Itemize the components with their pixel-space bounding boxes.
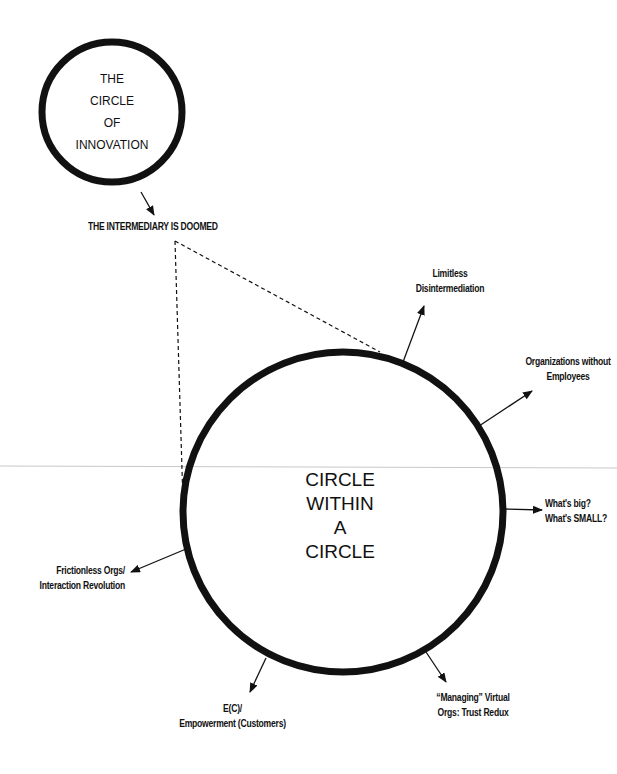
big-circle-label: CIRCLE WITHIN A CIRCLE — [270, 468, 410, 564]
label-orgs-line-2: Employees — [506, 369, 617, 384]
innovation-line-3: OF — [62, 112, 162, 134]
innovation-line-2: CIRCLE — [62, 90, 162, 112]
label-frictionless-line-2: Interaction Revolution — [12, 578, 125, 593]
label-empowerment: E(C)/ Empowerment (Customers) — [164, 701, 301, 731]
label-big-small: What's big? What's SMALL? — [545, 496, 617, 526]
label-managing-virtual: “Managing” Virtual Orgs: Trust Redux — [415, 690, 532, 720]
label-limitless: Limitless Disintermediation — [395, 266, 504, 296]
label-orgs-line-1: Organizations without — [506, 354, 617, 369]
dashed-line-right — [175, 241, 380, 352]
innovation-line-1: THE — [62, 68, 162, 90]
label-managing-line-1: “Managing” Virtual — [415, 690, 532, 705]
arrow-limitless — [403, 306, 424, 362]
innovation-line-4: INNOVATION — [62, 134, 162, 156]
innovation-circle-label: THE CIRCLE OF INNOVATION — [62, 68, 162, 156]
label-empowerment-line-2: Empowerment (Customers) — [164, 716, 301, 731]
intermediary-label: THE INTERMEDIARY IS DOOMED — [88, 219, 244, 234]
label-frictionless: Frictionless Orgs/ Interaction Revolutio… — [12, 563, 125, 593]
label-empowerment-line-1: E(C)/ — [164, 701, 301, 716]
big-circle-line-4: CIRCLE — [270, 540, 410, 564]
label-managing-line-2: Orgs: Trust Redux — [415, 705, 532, 720]
big-circle-line-3: A — [270, 516, 410, 540]
arrow-empowerment — [250, 658, 266, 692]
dashed-line-left — [175, 241, 183, 502]
arrow-big-small — [504, 509, 542, 510]
label-frictionless-line-1: Frictionless Orgs/ — [12, 563, 125, 578]
innovation-arrow — [141, 192, 154, 215]
label-limitless-line-1: Limitless — [395, 266, 504, 281]
arrow-orgs-without-employees — [479, 391, 532, 426]
big-circle-line-2: WITHIN — [270, 492, 410, 516]
label-limitless-line-2: Disintermediation — [395, 281, 504, 296]
label-big-small-line-2: What's SMALL? — [545, 511, 617, 526]
arrow-managing-virtual — [426, 652, 446, 682]
label-big-small-line-1: What's big? — [545, 496, 617, 511]
arrow-frictionless — [131, 549, 186, 572]
big-circle-line-1: CIRCLE — [270, 468, 410, 492]
label-orgs-without-employees: Organizations without Employees — [506, 354, 617, 384]
